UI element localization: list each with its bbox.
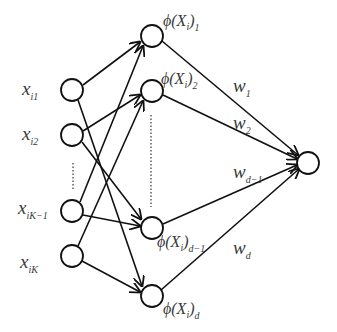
label-xi1: xi1 <box>21 78 38 102</box>
input-node-xiK-1 <box>61 200 83 222</box>
hidden-node-phi2 <box>141 80 163 102</box>
label-phi2: ϕ(Xi)2 <box>161 70 198 91</box>
input-node-xi2 <box>61 124 83 146</box>
edge-xiK-phid <box>82 261 140 292</box>
output-node <box>297 152 319 174</box>
label-xi2: xi2 <box>21 123 38 147</box>
edge-phi1-out <box>162 41 298 155</box>
input-node-xi1 <box>61 79 83 101</box>
edge-xi2-phid-1 <box>82 142 141 219</box>
label-xiK: xiK <box>19 251 39 275</box>
edge-phid-1-out <box>163 165 297 224</box>
edge-xi1-phi1 <box>83 42 140 85</box>
label-wd-1: wd−1 <box>233 161 262 185</box>
hidden-node-phi1 <box>141 25 163 47</box>
input-node-xiK <box>61 245 83 267</box>
label-wd: wd <box>233 237 252 261</box>
label-phid: ϕ(Xi)d <box>163 300 201 321</box>
edge-phi2-out <box>163 95 297 159</box>
label-xiK-1: xiK−1 <box>17 197 48 221</box>
label-phid-1: ϕ(Xi)d−1 <box>157 233 205 254</box>
edge-phid-out <box>161 169 299 290</box>
network-diagram: xi1 xi2 xiK−1 xiK ϕ(Xi)1 ϕ(Xi)2 ϕ(Xi)d−1… <box>0 0 337 332</box>
label-w1: w1 <box>233 75 251 99</box>
label-phi1: ϕ(Xi)1 <box>163 12 200 33</box>
label-w2: w2 <box>233 112 251 136</box>
hidden-node-phid <box>141 285 163 307</box>
input-hidden-edges <box>78 42 143 292</box>
